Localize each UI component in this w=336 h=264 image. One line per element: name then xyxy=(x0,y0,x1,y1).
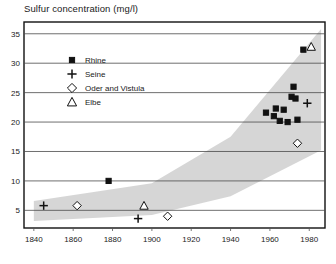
y-axis-ticks: 5101520253035 xyxy=(11,30,20,216)
legend-label: Rhine xyxy=(85,56,106,65)
svg-text:1860: 1860 xyxy=(64,235,82,244)
svg-text:15: 15 xyxy=(11,147,20,156)
svg-text:1840: 1840 xyxy=(25,235,43,244)
legend-label: Elbe xyxy=(85,98,102,107)
svg-text:1940: 1940 xyxy=(222,235,240,244)
legend-label: Oder and Vistula xyxy=(85,84,145,93)
x-axis-ticks: 18401860188019001920194019601980 xyxy=(25,228,319,244)
svg-text:20: 20 xyxy=(11,118,20,127)
svg-text:1900: 1900 xyxy=(143,235,161,244)
svg-text:1920: 1920 xyxy=(182,235,200,244)
svg-text:10: 10 xyxy=(11,177,20,186)
legend-item-elbe: Elbe xyxy=(67,97,101,107)
legend-label: Seine xyxy=(85,70,106,79)
chart-figure: Sulfur concentration (mg/l) 510152025303… xyxy=(0,0,336,264)
svg-text:1980: 1980 xyxy=(300,235,318,244)
svg-text:5: 5 xyxy=(16,206,21,215)
svg-text:35: 35 xyxy=(11,30,20,39)
svg-text:30: 30 xyxy=(11,59,20,68)
svg-text:1880: 1880 xyxy=(104,235,122,244)
svg-text:1960: 1960 xyxy=(261,235,279,244)
svg-text:25: 25 xyxy=(11,89,20,98)
chart-plot-area: 5101520253035 18401860188019001920194019… xyxy=(0,0,336,264)
